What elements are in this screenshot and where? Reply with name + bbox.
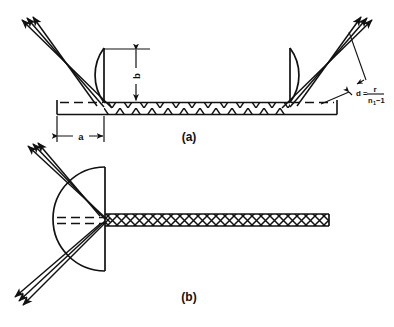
panel-b-label: (b)	[181, 290, 196, 304]
formula-denominator-rest: −1	[376, 96, 385, 105]
waveguide-b	[105, 214, 329, 226]
dim-a-label: a	[78, 131, 84, 142]
formula-d: d	[356, 89, 361, 98]
formula-numerator: r	[373, 85, 376, 94]
figure-background	[0, 0, 394, 327]
sawtooth-core-a	[104, 103, 290, 115]
figure-canvas: b a d = r n	[0, 0, 394, 327]
waveguide-core-b	[105, 214, 329, 226]
dim-b-label: b	[131, 73, 142, 79]
panel-a-label: (a)	[182, 130, 197, 144]
optics-figure: b a d = r n	[0, 0, 394, 327]
